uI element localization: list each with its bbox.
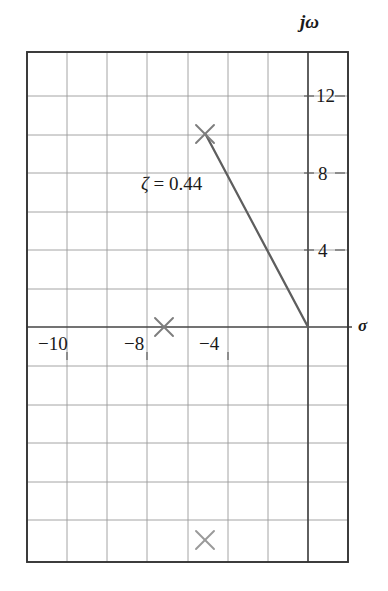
zeta-symbol: ζ <box>141 173 149 194</box>
real-axis-label: σ <box>358 317 367 334</box>
zeta-value: 0.44 <box>169 173 202 194</box>
y-tick-label-12: 12 <box>316 86 335 105</box>
plot-background <box>27 52 348 562</box>
zeta-equals-sign: = <box>153 173 164 194</box>
imaginary-axis-label: jω <box>300 12 319 31</box>
x-tick-label-minus-4: −4 <box>199 334 219 353</box>
x-tick-label-minus-8: −8 <box>124 334 144 353</box>
y-tick-label-8: 8 <box>318 164 328 183</box>
y-tick-label-4: 4 <box>318 241 328 260</box>
zeta-annotation: ζ = 0.44 <box>141 174 202 193</box>
s-plane-figure: jω σ 12 8 4 −10 −8 −4 ζ = 0.44 <box>0 0 388 591</box>
x-tick-label-minus-10: −10 <box>38 334 68 353</box>
